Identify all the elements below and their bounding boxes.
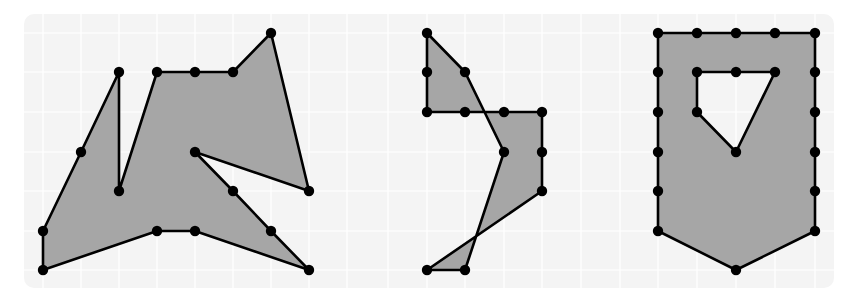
vertex-dot bbox=[810, 28, 820, 38]
vertex-dot bbox=[304, 186, 314, 196]
vertex-dot bbox=[499, 107, 509, 117]
vertex-dot bbox=[770, 67, 780, 77]
vertex-dot bbox=[731, 67, 741, 77]
vertex-dot bbox=[460, 67, 470, 77]
vertex-dot bbox=[76, 147, 86, 157]
vertex-dot bbox=[653, 226, 663, 236]
vertex-dot bbox=[810, 107, 820, 117]
vertex-dot bbox=[460, 265, 470, 275]
vertex-dot bbox=[653, 107, 663, 117]
vertex-dot bbox=[114, 186, 124, 196]
vertex-dot bbox=[537, 147, 547, 157]
shape-3-polygon-with-hole bbox=[653, 28, 820, 275]
vertex-dot bbox=[810, 147, 820, 157]
vertex-dot bbox=[228, 67, 238, 77]
vertex-dot bbox=[152, 226, 162, 236]
vertex-dot bbox=[731, 147, 741, 157]
vertex-dot bbox=[422, 67, 432, 77]
vertex-dot bbox=[810, 67, 820, 77]
vertex-dot bbox=[537, 186, 547, 196]
vertex-dot bbox=[770, 28, 780, 38]
vertex-dot bbox=[537, 107, 547, 117]
polygon-diagram bbox=[0, 0, 860, 296]
vertex-dot bbox=[731, 28, 741, 38]
vertex-dot bbox=[190, 67, 200, 77]
vertex-dot bbox=[653, 67, 663, 77]
vertex-dot bbox=[692, 28, 702, 38]
vertex-dot bbox=[653, 186, 663, 196]
vertex-dot bbox=[653, 28, 663, 38]
vertex-dot bbox=[460, 107, 470, 117]
vertex-dot bbox=[114, 67, 124, 77]
vertex-dot bbox=[810, 226, 820, 236]
vertex-dot bbox=[266, 226, 276, 236]
vertex-dot bbox=[653, 147, 663, 157]
vertex-dot bbox=[731, 265, 741, 275]
vertex-dot bbox=[38, 226, 48, 236]
diagram-canvas bbox=[0, 0, 860, 296]
vertex-dot bbox=[422, 28, 432, 38]
vertex-dot bbox=[692, 107, 702, 117]
vertex-dot bbox=[190, 147, 200, 157]
vertex-dot bbox=[422, 265, 432, 275]
vertex-dot bbox=[190, 226, 200, 236]
vertex-dot bbox=[810, 186, 820, 196]
vertex-dot bbox=[152, 67, 162, 77]
vertex-dot bbox=[692, 67, 702, 77]
vertex-dot bbox=[266, 28, 276, 38]
vertex-dot bbox=[499, 147, 509, 157]
vertex-dot bbox=[422, 107, 432, 117]
vertex-dot bbox=[304, 265, 314, 275]
vertex-dot bbox=[228, 186, 238, 196]
vertex-dot bbox=[38, 265, 48, 275]
